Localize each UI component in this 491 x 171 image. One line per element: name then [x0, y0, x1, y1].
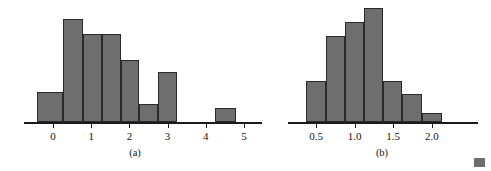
color-swatch-icon [474, 158, 485, 167]
histogram-bar [63, 19, 83, 122]
histogram-bar [121, 60, 139, 122]
histogram-bar [158, 72, 177, 122]
x-axis-tick-label: 0.5 [309, 130, 323, 142]
panel-b-plot-area [270, 0, 491, 140]
histogram-bar [83, 34, 102, 122]
x-axis-tick [168, 124, 169, 128]
x-axis-tick-label: 1 [88, 130, 94, 142]
x-axis-tick-label: 2 [127, 130, 133, 142]
x-axis-tick-label: 0 [50, 130, 56, 142]
histogram-bar [306, 81, 326, 122]
x-axis-tick [244, 124, 245, 128]
histogram-bar [215, 108, 236, 122]
x-axis-tick-label: 4 [203, 130, 209, 142]
histogram-bar [139, 104, 158, 122]
histogram-bar [422, 113, 442, 122]
histogram-bar [345, 22, 364, 122]
x-axis-tick [53, 124, 54, 128]
histogram-figure: (a) 012345 (b) 0.51.01.52.0 [0, 0, 491, 171]
panel-a: (a) 012345 [0, 0, 270, 171]
histogram-bar [326, 36, 345, 122]
panel-b-caption: (b) [376, 147, 388, 158]
histogram-bar [102, 34, 121, 122]
panel-a-caption: (a) [129, 147, 141, 158]
x-axis-tick-label: 1.5 [386, 130, 400, 142]
panel-a-plot-area [0, 0, 270, 140]
x-axis-tick [316, 124, 317, 128]
x-axis-tick-label: 1.0 [348, 130, 362, 142]
x-axis-tick [355, 124, 356, 128]
x-axis-tick [206, 124, 207, 128]
histogram-bar [383, 81, 402, 122]
histogram-bar [364, 8, 383, 122]
x-axis-tick [129, 124, 130, 128]
x-axis-tick [393, 124, 394, 128]
x-axis-tick-label: 2.0 [425, 130, 439, 142]
x-axis-tick [432, 124, 433, 128]
x-axis-tick-label: 3 [165, 130, 171, 142]
panel-b: (b) 0.51.01.52.0 [270, 0, 491, 171]
panel-a-x-axis [24, 122, 262, 124]
x-axis-tick [91, 124, 92, 128]
x-axis-tick-label: 5 [241, 130, 247, 142]
histogram-bar [37, 92, 63, 122]
histogram-bar [402, 94, 422, 122]
